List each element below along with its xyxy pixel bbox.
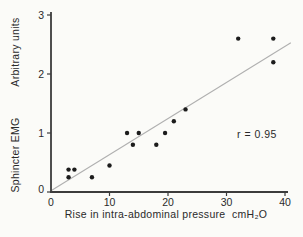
data-point [163, 131, 167, 135]
data-point [271, 36, 275, 40]
x-tick-label: 40 [279, 196, 291, 208]
data-point [107, 163, 111, 167]
y-tick-label: 1 [38, 127, 44, 139]
data-point [90, 175, 94, 179]
y-tick-label: 3 [38, 9, 44, 21]
y-tick-label: 0 [38, 183, 44, 195]
data-point [66, 175, 70, 179]
data-point [72, 167, 76, 171]
data-point [172, 119, 176, 123]
data-point [154, 143, 158, 147]
y-axis-label-arbitrary-units: Arbitrary units [9, 17, 21, 86]
y-tick-label: 2 [38, 68, 44, 80]
data-point [131, 143, 135, 147]
correlation-annotation: r = 0.95 [237, 128, 277, 140]
data-point [236, 36, 240, 40]
data-point [271, 60, 275, 64]
regression-line [51, 43, 291, 191]
data-point [183, 107, 187, 111]
y-axis-label-sphincter-emg: Sphincter EMG [9, 117, 21, 192]
plot-canvas: 0102030400123 [0, 0, 303, 237]
data-point [137, 131, 141, 135]
data-point [66, 167, 70, 171]
x-tick-label: 30 [221, 196, 233, 208]
x-axis-label: Rise in intra-abdominal pressure cmH₂O [65, 208, 268, 220]
x-tick-label: 0 [48, 196, 54, 208]
x-tick-label: 10 [104, 196, 116, 208]
scatter-chart-figure: 0102030400123 Arbitrary units Sphincter … [0, 0, 303, 237]
x-tick-label: 20 [162, 196, 174, 208]
data-point [125, 131, 129, 135]
